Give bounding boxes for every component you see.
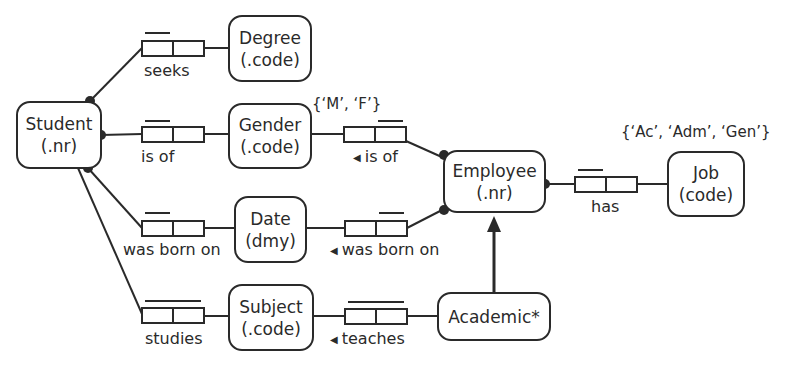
reading-bornon-employee: ◀was born on <box>330 241 439 261</box>
entity-ref: (code) <box>679 184 733 206</box>
entity-ref: (.nr) <box>476 182 512 204</box>
entity-gender[interactable]: Gender (.code) <box>228 103 312 169</box>
entity-name: Gender <box>239 114 302 136</box>
entity-name: Employee <box>452 160 536 182</box>
reading-teaches: ◀teaches <box>330 330 405 350</box>
entity-subject[interactable]: Subject (.code) <box>228 284 314 351</box>
reading-isof-student: is of <box>141 148 174 166</box>
entity-academic[interactable]: Academic* <box>437 292 551 341</box>
entity-ref: (dmy) <box>245 230 296 252</box>
inverse-reading-arrow-icon: ◀ <box>353 152 361 163</box>
entity-name: Degree <box>239 27 301 49</box>
reading-bornon-student: was born on <box>123 241 221 259</box>
entity-ref: (.code) <box>240 136 300 158</box>
entity-date[interactable]: Date (dmy) <box>234 196 307 263</box>
reading-isof-employee: ◀is of <box>353 148 398 168</box>
inverse-reading-arrow-icon: ◀ <box>330 334 338 345</box>
reading-studies: studies <box>145 330 203 348</box>
entity-name: Student <box>26 113 93 135</box>
connector-student-bornon <box>88 168 142 228</box>
entity-job[interactable]: Job (code) <box>667 151 745 217</box>
entity-degree[interactable]: Degree (.code) <box>228 15 312 82</box>
connector-student-isof <box>101 134 142 135</box>
inverse-reading-arrow-icon: ◀ <box>330 245 338 256</box>
entity-employee[interactable]: Employee (.nr) <box>443 150 546 213</box>
value-constraint-gender: {‘M’, ‘F’} <box>312 95 381 113</box>
entity-name: Date <box>250 208 291 230</box>
entity-ref: (.nr) <box>41 135 77 157</box>
entity-name: Job <box>693 162 719 184</box>
subtype-arrow-head <box>487 216 501 232</box>
entity-ref: (.code) <box>240 49 300 71</box>
connector-student-seeks <box>90 48 142 101</box>
entity-student[interactable]: Student (.nr) <box>16 101 102 169</box>
entity-ref: (.code) <box>241 318 301 340</box>
entity-name: Subject <box>239 296 303 318</box>
value-constraint-job: {‘Ac’, ‘Adm’, ‘Gen’} <box>621 123 771 141</box>
entity-name: Academic* <box>448 306 539 328</box>
reading-has: has <box>591 198 619 216</box>
reading-seeks: seeks <box>144 62 190 80</box>
